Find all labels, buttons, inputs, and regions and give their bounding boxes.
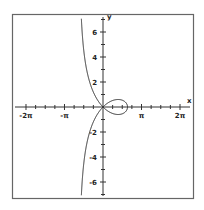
x-axis-label: x [187, 97, 192, 105]
x-tick-label: -2π [19, 112, 33, 120]
y-tick-label: -4 [89, 154, 97, 162]
y-tick-label: 2 [92, 79, 97, 87]
x-tick-label: -π [60, 112, 69, 120]
plot-area: -2π-ππ2π642-2-4-6 x y [0, 0, 204, 210]
y-tick-label: 4 [92, 54, 97, 62]
y-tick-label: 6 [92, 29, 97, 37]
x-tick-label: 2π [175, 112, 186, 120]
y-axis-label: y [107, 13, 112, 21]
x-tick-label: π [139, 112, 145, 120]
y-tick-label: -6 [89, 179, 97, 187]
